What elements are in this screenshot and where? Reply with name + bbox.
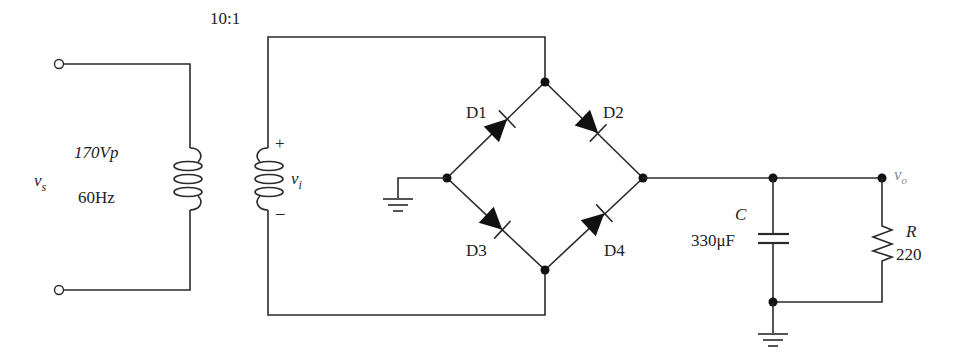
- primary-wire-bottom: [64, 210, 190, 290]
- diode-d1-label: D1: [466, 103, 487, 122]
- secondary-coil-icon: [255, 148, 283, 210]
- diode-d2-label: D2: [603, 103, 624, 122]
- diode-bridge: D1 D2 D3 D4: [443, 78, 648, 275]
- primary-wire-top: [64, 64, 190, 148]
- secondary-plus-sign: +: [275, 134, 285, 153]
- source-voltage-label: vs: [34, 171, 47, 194]
- resistor-icon: [773, 178, 892, 302]
- node-bottom: [541, 266, 550, 275]
- ground-icon-right: [758, 302, 788, 346]
- input-terminal-bottom: [55, 286, 64, 295]
- node-top: [541, 78, 550, 87]
- source-amplitude-label: 170Vp: [74, 143, 118, 162]
- transformer-ratio-label: 10:1: [210, 9, 240, 28]
- secondary-wire-top: [268, 37, 545, 148]
- capacitor-name-label: C: [735, 205, 747, 224]
- bridge-rectifier-schematic: 10:1 170Vp 60Hz vs + – vi: [0, 0, 960, 358]
- capacitor-icon: [758, 178, 789, 302]
- output-voltage-label: vo: [894, 165, 908, 186]
- secondary-circuit: + – vi: [255, 37, 545, 315]
- resistor-name-label: R: [905, 222, 917, 241]
- input-terminal-top: [55, 60, 64, 69]
- source-frequency-label: 60Hz: [78, 188, 115, 207]
- diode-d3-label: D3: [466, 241, 487, 260]
- ground-icon-left: [383, 178, 447, 211]
- secondary-minus-sign: –: [275, 203, 285, 222]
- primary-circuit: 170Vp 60Hz vs: [34, 60, 202, 295]
- output-filter: C 330μF R 220 vo: [643, 165, 922, 346]
- capacitor-value-label: 330μF: [691, 231, 735, 250]
- primary-coil-icon: [174, 148, 202, 210]
- resistor-value-label: 220: [896, 245, 922, 264]
- secondary-voltage-label: vi: [291, 169, 302, 192]
- diode-d4-label: D4: [604, 241, 625, 260]
- secondary-wire-bottom: [268, 210, 545, 315]
